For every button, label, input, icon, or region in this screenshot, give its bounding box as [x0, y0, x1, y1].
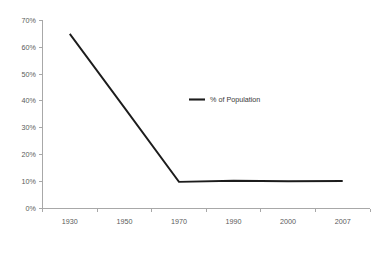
y-tick-label: 20% — [22, 150, 37, 159]
x-tick-label: 2007 — [335, 217, 351, 226]
x-tick-label: 1990 — [226, 217, 242, 226]
x-tick-label: 1930 — [62, 217, 78, 226]
y-tick-label: 50% — [22, 70, 37, 79]
x-tick-label: 1970 — [171, 217, 187, 226]
line-chart: 70% 60% 50% 40% 30% 20% 10% 0% 1930 1950… — [0, 0, 386, 261]
x-tick-label: 2000 — [280, 217, 296, 226]
y-tick-label: 70% — [22, 16, 37, 25]
chart-canvas: 70% 60% 50% 40% 30% 20% 10% 0% 1930 1950… — [0, 0, 386, 261]
y-tick-label: 40% — [22, 96, 37, 105]
legend-label: % of Population — [210, 95, 260, 104]
y-tick-label: 10% — [22, 177, 37, 186]
y-tick-label: 30% — [22, 123, 37, 132]
chart-background — [0, 0, 386, 261]
y-tick-label: 0% — [26, 204, 37, 213]
x-tick-label: 1950 — [116, 217, 132, 226]
y-tick-label: 60% — [22, 43, 37, 52]
